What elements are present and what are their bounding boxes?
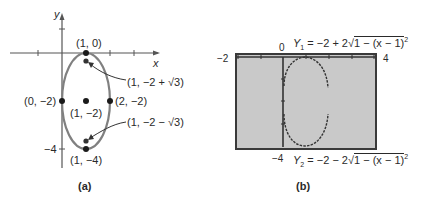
equation-y1: Y1 = −2 + 2√1 − (x − 1)2 xyxy=(293,36,408,51)
window-ymin: −4 xyxy=(272,153,283,165)
calculator-graph xyxy=(0,0,438,207)
window-xmin: −2 xyxy=(217,53,228,65)
window-xmax: 4 xyxy=(383,53,389,65)
caption-b: (b) xyxy=(296,180,310,192)
equation-y2: Y2 = −2 − 2√1 − (x − 1)2 xyxy=(293,153,408,168)
window-ymax: 0 xyxy=(279,42,285,54)
